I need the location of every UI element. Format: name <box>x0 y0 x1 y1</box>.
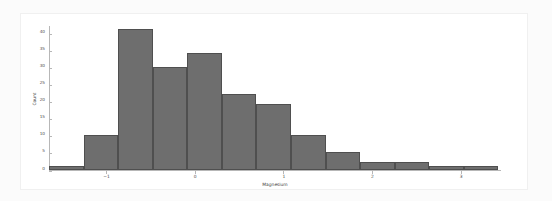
y-tick-mark <box>49 102 52 103</box>
histogram-bar <box>360 162 395 170</box>
y-axis-label: Count <box>33 92 37 105</box>
histogram-bar <box>256 104 291 170</box>
y-tick-label: 40 <box>40 30 45 34</box>
x-axis-spine <box>49 170 501 171</box>
histogram-bar <box>84 135 119 170</box>
y-tick-label: 0 <box>42 167 45 171</box>
histogram-bars <box>49 25 501 170</box>
y-tick-label: 10 <box>40 132 45 136</box>
y-tick-label: 30 <box>40 64 45 68</box>
histogram-bar <box>326 152 361 170</box>
histogram-bar <box>395 162 430 170</box>
histogram-bar <box>153 67 188 170</box>
x-tick-label: 0 <box>194 175 197 179</box>
x-tick-label: 2 <box>371 175 374 179</box>
histogram-bar <box>187 53 222 170</box>
y-tick-label: 5 <box>42 149 45 153</box>
histogram-bar <box>291 135 326 170</box>
y-tick-label: 35 <box>40 47 45 51</box>
y-tick-label: 15 <box>40 115 45 119</box>
histogram-bar <box>49 166 84 170</box>
histogram-bar <box>464 166 499 170</box>
histogram-figure: 0510152025303540 −10123 Magnesium Count <box>21 14 527 189</box>
y-tick-mark <box>49 85 52 86</box>
y-tick-mark <box>49 34 52 35</box>
y-tick-mark <box>49 136 52 137</box>
histogram-bar <box>222 94 257 170</box>
x-tick-label: −1 <box>103 175 109 179</box>
y-tick-mark <box>49 153 52 154</box>
histogram-bar <box>429 166 464 170</box>
x-tick-label: 1 <box>282 175 285 179</box>
x-tick-label: 3 <box>460 175 463 179</box>
screenshot-root: 0510152025303540 −10123 Magnesium Count <box>0 0 552 201</box>
x-axis-label: Magnesium <box>49 183 501 187</box>
plot-axes: 0510152025303540 −10123 Magnesium Count <box>49 26 501 171</box>
y-tick-mark <box>49 51 52 52</box>
y-tick-label: 20 <box>40 98 45 102</box>
y-tick-label: 25 <box>40 81 45 85</box>
histogram-bar <box>118 29 153 170</box>
y-tick-mark <box>49 171 52 172</box>
chart-card: 0510152025303540 −10123 Magnesium Count <box>20 13 528 190</box>
y-tick-mark <box>49 119 52 120</box>
y-tick-mark <box>49 68 52 69</box>
